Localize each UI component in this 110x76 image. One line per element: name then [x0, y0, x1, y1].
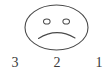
- scale-label-3: 3: [8, 54, 22, 72]
- scale-label-2: 2: [50, 54, 64, 72]
- frown-mouth-icon: [39, 33, 76, 39]
- right-eye-icon: [63, 19, 70, 24]
- scale-label-1: 1: [92, 54, 106, 72]
- sad-face-rating-scale-figure: 3 2 1: [0, 0, 110, 76]
- scale-label-row: 3 2 1: [0, 54, 110, 76]
- face-outline-icon: [25, 5, 88, 50]
- left-eye-icon: [44, 19, 51, 24]
